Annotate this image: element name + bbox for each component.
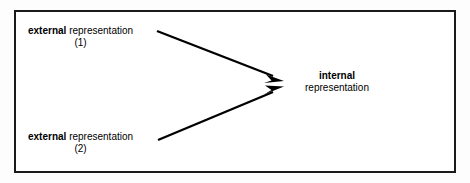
node-internal-line2: representation bbox=[291, 82, 383, 94]
diagram-figure: external representation (1) external rep… bbox=[0, 0, 470, 183]
node-external-representation-2: external representation (2) bbox=[28, 131, 133, 155]
node-external-1-bold: external bbox=[28, 25, 66, 36]
node-external-representation-1: external representation (1) bbox=[28, 25, 133, 49]
node-internal-representation: internal representation bbox=[291, 70, 383, 94]
node-internal-line1: internal bbox=[291, 70, 383, 82]
node-external-1-line1: external representation bbox=[28, 25, 133, 37]
node-external-2-line1: external representation bbox=[28, 131, 133, 143]
node-external-2-bold: external bbox=[28, 131, 66, 142]
node-external-2-line2: (2) bbox=[28, 143, 133, 155]
node-external-2-rest: representation bbox=[66, 131, 133, 142]
node-external-1-rest: representation bbox=[66, 25, 133, 36]
node-external-1-line2: (1) bbox=[28, 37, 133, 49]
